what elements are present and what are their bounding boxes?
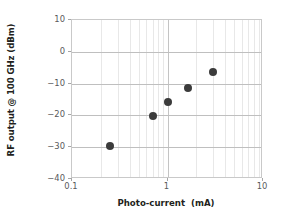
gridline-x-minor bbox=[118, 20, 119, 177]
gridline-y-major bbox=[72, 84, 261, 85]
gridline-x-minor bbox=[101, 20, 102, 177]
tick-label-y: −20 bbox=[25, 109, 65, 119]
gridline-x-minor bbox=[259, 20, 260, 177]
plot-area bbox=[71, 19, 262, 178]
gridline-x-minor bbox=[248, 20, 249, 177]
tick-label-y: −10 bbox=[25, 78, 65, 88]
gridline-x-minor bbox=[153, 20, 154, 177]
gridline-x-minor bbox=[242, 20, 243, 177]
gridline-x-minor bbox=[234, 20, 235, 177]
tick-label-x: 1 bbox=[164, 181, 169, 191]
tick-label-x: 0.1 bbox=[64, 181, 77, 191]
tick-label-y: −40 bbox=[25, 173, 65, 183]
chart-figure: RF output @ 100 GHz (dBm) 0.1110100−10−2… bbox=[0, 0, 284, 220]
tick-mark-y bbox=[68, 178, 71, 179]
plot-inner bbox=[72, 20, 261, 177]
gridline-x-minor bbox=[146, 20, 147, 177]
y-axis-title: RF output @ 100 GHz (dBm) bbox=[0, 0, 22, 180]
gridline-x-minor bbox=[196, 20, 197, 177]
data-point bbox=[164, 98, 172, 106]
gridline-x-minor bbox=[213, 20, 214, 177]
tick-label-y: 10 bbox=[25, 14, 65, 24]
x-axis-title: Photo-current (mA) bbox=[70, 198, 262, 208]
tick-label-y: −30 bbox=[25, 141, 65, 151]
tick-mark-y bbox=[68, 51, 71, 52]
gridline-y-major bbox=[72, 147, 261, 148]
tick-mark-y bbox=[68, 83, 71, 84]
data-point bbox=[106, 142, 114, 150]
y-axis-title-text: RF output @ 100 GHz (dBm) bbox=[6, 24, 16, 157]
tick-label-x: 10 bbox=[257, 181, 268, 191]
gridline-y-major bbox=[72, 115, 261, 116]
gridline-x-minor bbox=[130, 20, 131, 177]
tick-mark-y bbox=[68, 19, 71, 20]
gridline-x-minor bbox=[139, 20, 140, 177]
tick-label-y: 0 bbox=[25, 46, 65, 56]
tick-mark-y bbox=[68, 114, 71, 115]
data-point bbox=[209, 68, 217, 76]
data-point bbox=[184, 84, 192, 92]
gridline-x-minor bbox=[158, 20, 159, 177]
gridline-y-major bbox=[72, 52, 261, 53]
gridline-x-minor bbox=[254, 20, 255, 177]
gridline-x-minor bbox=[225, 20, 226, 177]
data-point bbox=[149, 112, 157, 120]
tick-mark-y bbox=[68, 146, 71, 147]
